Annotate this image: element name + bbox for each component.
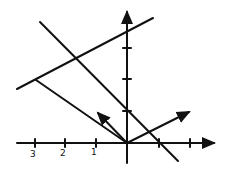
x-tick-label: 1 [91, 147, 97, 157]
segment-to-origin [36, 80, 127, 143]
x-tick-label: 3 [30, 149, 36, 159]
vector-up-left [98, 113, 127, 143]
line-upper [17, 18, 153, 89]
diagram-canvas: 3 2 1 [0, 0, 229, 174]
x-tick-label: 2 [60, 148, 66, 158]
vector-up-right [127, 112, 189, 143]
line-diagonal [40, 22, 178, 161]
